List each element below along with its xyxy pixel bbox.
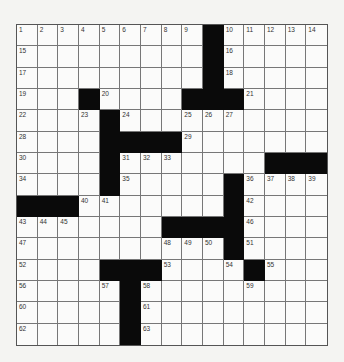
crossword-cell[interactable] (244, 46, 265, 67)
crossword-cell[interactable]: 49 (182, 238, 203, 259)
crossword-cell[interactable]: 5 (100, 25, 121, 46)
crossword-cell[interactable] (58, 281, 79, 302)
crossword-cell[interactable] (244, 132, 265, 153)
crossword-cell[interactable] (306, 260, 327, 281)
crossword-cell[interactable]: 37 (265, 174, 286, 195)
crossword-cell[interactable] (286, 110, 307, 131)
crossword-cell[interactable] (203, 196, 224, 217)
crossword-cell[interactable] (182, 174, 203, 195)
crossword-cell[interactable]: 54 (224, 260, 245, 281)
crossword-cell[interactable] (203, 174, 224, 195)
crossword-cell[interactable] (265, 238, 286, 259)
crossword-cell[interactable]: 60 (17, 302, 38, 323)
crossword-cell[interactable]: 13 (286, 25, 307, 46)
crossword-cell[interactable] (38, 68, 59, 89)
crossword-cell[interactable] (58, 89, 79, 110)
crossword-cell[interactable]: 20 (100, 89, 121, 110)
crossword-cell[interactable]: 50 (203, 238, 224, 259)
crossword-cell[interactable]: 52 (17, 260, 38, 281)
crossword-cell[interactable] (182, 281, 203, 302)
crossword-cell[interactable]: 61 (141, 302, 162, 323)
crossword-cell[interactable]: 55 (265, 260, 286, 281)
crossword-cell[interactable]: 8 (162, 25, 183, 46)
crossword-cell[interactable]: 28 (17, 132, 38, 153)
crossword-cell[interactable] (79, 217, 100, 238)
crossword-cell[interactable] (306, 46, 327, 67)
crossword-cell[interactable] (120, 89, 141, 110)
crossword-cell[interactable] (286, 281, 307, 302)
crossword-cell[interactable]: 58 (141, 281, 162, 302)
crossword-cell[interactable] (38, 174, 59, 195)
crossword-cell[interactable] (58, 324, 79, 345)
crossword-cell[interactable] (265, 302, 286, 323)
crossword-cell[interactable]: 38 (286, 174, 307, 195)
crossword-cell[interactable] (203, 281, 224, 302)
crossword-cell[interactable] (100, 238, 121, 259)
crossword-cell[interactable] (58, 153, 79, 174)
crossword-cell[interactable]: 16 (224, 46, 245, 67)
crossword-cell[interactable] (265, 132, 286, 153)
crossword-cell[interactable] (141, 217, 162, 238)
crossword-cell[interactable]: 3 (58, 25, 79, 46)
crossword-cell[interactable] (286, 68, 307, 89)
crossword-cell[interactable]: 29 (182, 132, 203, 153)
crossword-cell[interactable] (306, 89, 327, 110)
crossword-cell[interactable] (182, 46, 203, 67)
crossword-cell[interactable] (286, 302, 307, 323)
crossword-cell[interactable]: 35 (120, 174, 141, 195)
crossword-cell[interactable]: 45 (58, 217, 79, 238)
crossword-cell[interactable]: 7 (141, 25, 162, 46)
crossword-cell[interactable] (224, 132, 245, 153)
crossword-cell[interactable]: 32 (141, 153, 162, 174)
crossword-cell[interactable] (265, 196, 286, 217)
crossword-cell[interactable] (141, 110, 162, 131)
crossword-cell[interactable] (79, 324, 100, 345)
crossword-cell[interactable]: 12 (265, 25, 286, 46)
crossword-cell[interactable] (286, 196, 307, 217)
crossword-cell[interactable]: 24 (120, 110, 141, 131)
crossword-cell[interactable]: 9 (182, 25, 203, 46)
crossword-cell[interactable] (38, 46, 59, 67)
crossword-cell[interactable] (203, 132, 224, 153)
crossword-cell[interactable] (38, 89, 59, 110)
crossword-cell[interactable] (286, 238, 307, 259)
crossword-cell[interactable] (79, 153, 100, 174)
crossword-cell[interactable]: 22 (17, 110, 38, 131)
crossword-cell[interactable] (141, 196, 162, 217)
crossword-cell[interactable]: 26 (203, 110, 224, 131)
crossword-cell[interactable]: 4 (79, 25, 100, 46)
crossword-cell[interactable] (100, 324, 121, 345)
crossword-cell[interactable] (79, 281, 100, 302)
crossword-cell[interactable] (141, 46, 162, 67)
crossword-cell[interactable] (162, 174, 183, 195)
crossword-cell[interactable] (265, 217, 286, 238)
crossword-cell[interactable] (38, 132, 59, 153)
crossword-cell[interactable] (265, 281, 286, 302)
crossword-cell[interactable] (38, 324, 59, 345)
crossword-cell[interactable] (38, 260, 59, 281)
crossword-cell[interactable] (306, 217, 327, 238)
crossword-cell[interactable] (265, 68, 286, 89)
crossword-cell[interactable] (58, 46, 79, 67)
crossword-cell[interactable] (79, 46, 100, 67)
crossword-cell[interactable]: 51 (244, 238, 265, 259)
crossword-cell[interactable] (244, 153, 265, 174)
crossword-cell[interactable]: 17 (17, 68, 38, 89)
crossword-cell[interactable]: 46 (244, 217, 265, 238)
crossword-cell[interactable] (306, 238, 327, 259)
crossword-cell[interactable]: 63 (141, 324, 162, 345)
crossword-cell[interactable] (120, 46, 141, 67)
crossword-cell[interactable] (100, 217, 121, 238)
crossword-cell[interactable] (265, 46, 286, 67)
crossword-cell[interactable] (182, 324, 203, 345)
crossword-cell[interactable] (306, 110, 327, 131)
crossword-cell[interactable] (244, 302, 265, 323)
crossword-cell[interactable]: 23 (79, 110, 100, 131)
crossword-cell[interactable] (224, 302, 245, 323)
crossword-cell[interactable] (162, 110, 183, 131)
crossword-cell[interactable]: 57 (100, 281, 121, 302)
crossword-cell[interactable] (162, 46, 183, 67)
crossword-cell[interactable]: 62 (17, 324, 38, 345)
crossword-cell[interactable] (38, 302, 59, 323)
crossword-cell[interactable] (286, 217, 307, 238)
